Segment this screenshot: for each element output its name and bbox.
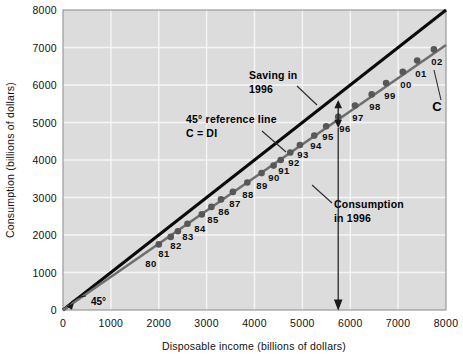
data-point [414, 57, 421, 64]
x-tick-label: 6000 [338, 317, 363, 329]
y-tick-label: 3000 [32, 192, 57, 204]
consumption-function-chart: 80 81 82 83 84 85 86 87 88 89 90 91 92 9… [0, 0, 463, 359]
consumption-annotation-line1: Consumption [334, 198, 404, 210]
x-tick-label: 4000 [242, 317, 267, 329]
data-point [287, 149, 294, 156]
year-label: 02 [431, 56, 442, 67]
data-point [258, 170, 265, 177]
data-point [208, 204, 215, 211]
data-point [352, 102, 359, 109]
data-point [270, 162, 277, 169]
x-tick-label: 3000 [194, 317, 219, 329]
saving-annotation-line2: 1996 [249, 83, 273, 95]
year-label: 00 [400, 79, 411, 90]
year-label: 99 [384, 90, 395, 101]
x-tick-label: 0 [60, 317, 66, 329]
year-label: 95 [322, 131, 334, 142]
data-point [199, 211, 206, 218]
x-tick-label: 2000 [147, 317, 172, 329]
year-label: 01 [415, 68, 427, 79]
c-curve-label: C [432, 99, 442, 114]
y-axis-tick-labels: 0 1000 2000 3000 4000 5000 6000 7000 800… [32, 4, 57, 316]
x-tick-label: 1000 [99, 317, 124, 329]
data-point [175, 228, 182, 235]
year-label: 93 [297, 149, 308, 160]
year-label: 88 [242, 189, 253, 200]
data-point [184, 220, 191, 227]
y-tick-label: 8000 [32, 4, 57, 16]
y-tick-label: 5000 [32, 117, 57, 129]
data-point [297, 142, 304, 149]
year-label: 84 [194, 223, 206, 234]
data-point [218, 196, 225, 203]
y-tick-label: 1000 [32, 267, 57, 279]
year-label: 87 [229, 198, 240, 209]
chart-svg: 80 81 82 83 84 85 86 87 88 89 90 91 92 9… [0, 0, 463, 359]
year-label: 98 [369, 101, 380, 112]
data-point [431, 46, 438, 53]
data-point [400, 69, 407, 76]
y-tick-label: 4000 [32, 154, 57, 166]
reference-annotation-line1: 45° reference line [186, 113, 277, 125]
year-label: 80 [145, 258, 156, 269]
year-label: 81 [158, 248, 170, 259]
year-label: 89 [256, 180, 267, 191]
reference-annotation-line2: C = DI [186, 127, 217, 139]
data-point [230, 189, 237, 196]
saving-annotation-line1: Saving in [249, 69, 297, 81]
data-point [277, 157, 284, 164]
x-axis-title: Disposable income (billions of dollars) [162, 340, 346, 352]
y-axis-title: Consumption (billions of dollars) [4, 82, 16, 238]
x-tick-label: 7000 [386, 317, 411, 329]
consumption-annotation-line2: in 1996 [334, 212, 371, 224]
y-tick-label: 0 [51, 304, 57, 316]
data-point [244, 179, 251, 186]
year-label: 83 [182, 231, 193, 242]
y-tick-label: 2000 [32, 229, 57, 241]
x-tick-label: 5000 [290, 317, 315, 329]
angle-label-45: 45° [91, 296, 106, 307]
year-label: 97 [352, 112, 363, 123]
year-label: 82 [170, 240, 181, 251]
y-tick-label: 6000 [32, 79, 57, 91]
data-point [368, 91, 375, 98]
x-tick-label: 8000 [434, 317, 459, 329]
data-point [156, 241, 163, 248]
year-label: 85 [207, 214, 219, 225]
x-axis-tick-labels: 0 1000 2000 3000 4000 5000 6000 7000 800… [60, 317, 458, 329]
year-label: 86 [218, 206, 229, 217]
y-tick-label: 7000 [32, 42, 57, 54]
year-label: 94 [310, 140, 322, 151]
year-label: 96 [339, 123, 350, 134]
data-point [311, 132, 318, 139]
data-point [383, 80, 390, 87]
data-point [323, 123, 330, 130]
